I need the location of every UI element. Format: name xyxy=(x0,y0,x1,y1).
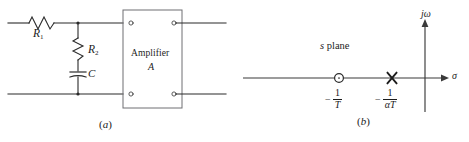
figure-svg xyxy=(0,0,469,142)
sigma-axis-arrowhead xyxy=(441,75,449,82)
caption-a-letter: a xyxy=(103,118,109,130)
splane-diagram xyxy=(243,19,449,112)
resistor-r2-symbol xyxy=(73,38,83,60)
resistor-r1-label: R1 xyxy=(33,28,44,41)
pole-value-label: − 1 αT xyxy=(375,88,397,110)
capacitor-c-label: C xyxy=(88,68,95,79)
zero-label-numerator: 1 xyxy=(333,88,343,100)
caption-b: (b) xyxy=(357,116,370,127)
amplifier-gain-label: A xyxy=(148,62,154,72)
splane-label-rest: plane xyxy=(324,40,349,51)
sigma-axis-label: σ xyxy=(452,71,457,81)
jomega-axis-label: jω xyxy=(421,9,431,19)
pole-label-denominator: αT xyxy=(383,100,398,111)
zero-label-fraction: 1 T xyxy=(333,88,343,110)
zero-marker-center-dot xyxy=(338,77,340,79)
pole-label-minus-sign: − xyxy=(375,94,383,105)
caption-b-letter: b xyxy=(361,115,367,127)
amplifier-label: Amplifier xyxy=(131,49,169,59)
pole-label-numerator: 1 xyxy=(383,88,398,100)
caption-a: (a) xyxy=(99,119,112,130)
zero-value-label: − 1 T xyxy=(325,88,342,110)
resistor-r2-label: R2 xyxy=(88,44,99,57)
amplifier-terminal-in-top xyxy=(129,21,133,25)
resistor-r1-subscript: 1 xyxy=(40,33,44,41)
splane-label: s plane xyxy=(320,41,349,52)
amplifier-terminal-in-bottom xyxy=(129,92,133,96)
figure-container: R1 R2 C Amplifier A (a) s plane jω σ − 1… xyxy=(0,0,469,142)
jomega-axis-arrowhead xyxy=(422,19,429,27)
zero-label-denominator: T xyxy=(333,100,343,111)
pole-label-fraction: 1 αT xyxy=(383,88,398,110)
jomega-omega-glyph: ω xyxy=(424,8,431,19)
resistor-r2-subscript: 2 xyxy=(95,49,99,57)
zero-label-minus-sign: − xyxy=(325,94,333,105)
circuit-diagram xyxy=(8,10,226,108)
